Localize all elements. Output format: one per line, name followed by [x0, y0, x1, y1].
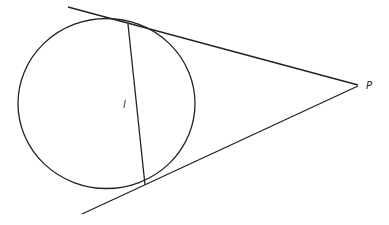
chord-label: l — [123, 99, 126, 110]
point-label: P — [366, 80, 373, 91]
circle — [18, 19, 195, 189]
diagram-canvas: l P — [0, 0, 389, 225]
chord-l — [128, 24, 145, 185]
upper-tangent-line — [68, 7, 358, 85]
